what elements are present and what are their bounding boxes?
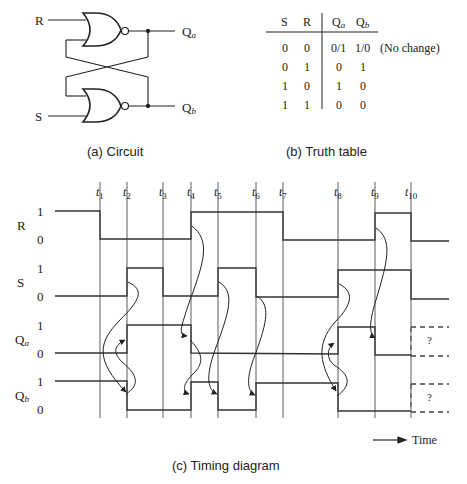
tt-note-no-change: (No change) — [380, 42, 440, 54]
nor-bubble-upper — [122, 28, 129, 35]
waveform-qb — [55, 381, 411, 411]
circuit-caption: (a) Circuit — [87, 144, 143, 159]
tt-cell: 1 — [304, 61, 310, 73]
level-high: 1 — [37, 319, 44, 332]
signal-label-qb: Qb — [15, 389, 29, 404]
tt-cell: 0 — [304, 42, 310, 54]
signal-label-r: R — [17, 219, 26, 232]
tt-cell: 0 — [360, 99, 366, 111]
tt-cell: 0 — [304, 80, 310, 92]
truth-table-caption: (b) Truth table — [286, 144, 367, 159]
causality-arrows — [103, 226, 387, 396]
timing-caption: (c) Timing diagram — [172, 458, 280, 473]
time-mark-t3: t3 — [159, 186, 167, 201]
time-mark-t10: t10 — [405, 186, 417, 201]
tt-header-qa: Qa — [332, 16, 345, 30]
nor-gate-upper — [83, 13, 121, 46]
time-mark-t4: t4 — [187, 186, 195, 201]
signal-label-qa: Qa — [15, 333, 29, 348]
tt-cell: 0 — [336, 61, 342, 73]
tt-cell: 0 — [336, 99, 342, 111]
figure-canvas — [0, 0, 467, 484]
sr-latch-circuit — [48, 13, 175, 122]
tt-cell: 0 — [282, 61, 288, 73]
tt-header-r: R — [303, 16, 311, 28]
waveform-r — [55, 211, 449, 241]
level-low: 0 — [37, 347, 44, 360]
tt-cell: 1 — [282, 99, 288, 111]
tt-cell: 0 — [360, 80, 366, 92]
circuit-output-qb: Qb — [182, 101, 196, 116]
time-mark-t1: t1 — [96, 186, 104, 201]
time-mark-t6: t6 — [252, 186, 260, 201]
nor-gate-lower — [83, 89, 121, 122]
level-low: 0 — [37, 403, 44, 416]
signal-label-s: S — [17, 276, 24, 289]
level-high: 1 — [37, 262, 44, 275]
level-low: 0 — [37, 233, 44, 246]
level-high: 1 — [37, 375, 44, 388]
time-mark-t5: t5 — [214, 186, 222, 201]
tt-cell: 1/0 — [355, 42, 370, 54]
level-high: 1 — [37, 205, 44, 218]
time-arrow — [373, 437, 406, 443]
tt-cell: 1 — [282, 80, 288, 92]
unknown-qb-marker: ? — [427, 392, 432, 403]
time-mark-t2: t2 — [123, 186, 131, 201]
nor-bubble-lower — [122, 103, 129, 110]
tt-header-qb: Qb — [356, 16, 369, 30]
unknown-qa-marker: ? — [427, 335, 432, 346]
time-mark-t8: t8 — [334, 186, 342, 201]
tt-header-s: S — [281, 16, 288, 28]
circuit-input-r: R — [35, 14, 44, 27]
tt-cell: 0/1 — [331, 42, 346, 54]
time-mark-t7: t7 — [279, 186, 287, 201]
level-low: 0 — [37, 290, 44, 303]
waveforms — [55, 211, 449, 411]
tt-cell: 0 — [282, 42, 288, 54]
tt-cell: 1 — [360, 61, 366, 73]
time-mark-t9: t9 — [371, 186, 379, 201]
time-axis-label: Time — [412, 434, 437, 446]
circuit-output-qa: Qa — [182, 25, 196, 40]
waveform-s — [55, 268, 449, 299]
tt-cell: 1 — [304, 99, 310, 111]
circuit-input-s: S — [35, 110, 42, 123]
waveform-qa — [55, 325, 411, 355]
tt-cell: 1 — [336, 80, 342, 92]
